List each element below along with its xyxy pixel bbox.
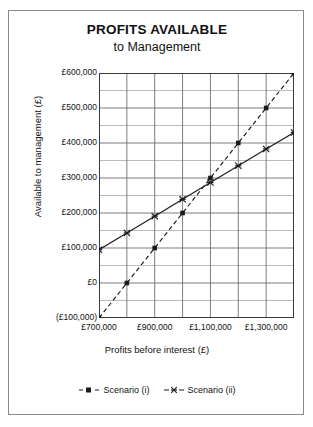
y-axis-tick-labels: £600,000£500,000£400,000£300,000£200,000… [21, 73, 97, 318]
legend-label-scenario-i: Scenario (i) [103, 385, 149, 395]
y-tick-label: £500,000 [27, 102, 97, 112]
chart-canvas [99, 73, 294, 318]
legend-marker-square-icon [78, 385, 100, 395]
y-tick-label: (£100,000) [27, 312, 97, 322]
y-tick-label: £600,000 [27, 67, 97, 77]
x-tick-label: £1,300,000 [226, 322, 304, 332]
legend-label-scenario-ii: Scenario (ii) [188, 385, 236, 395]
legend-item-scenario-i: Scenario (i) [78, 385, 149, 395]
plot-area [99, 73, 294, 318]
chart-title-block: PROFITS AVAILABLE to Management [9, 22, 304, 55]
y-tick-label: £0 [27, 277, 97, 287]
y-tick-label: £300,000 [27, 172, 97, 182]
y-tick-label: £100,000 [27, 242, 97, 252]
x-axis-title: Profits before interest (£) [9, 344, 304, 355]
chart-subtitle: to Management [9, 39, 304, 55]
legend-item-scenario-ii: Scenario (ii) [163, 385, 236, 395]
y-tick-label: £200,000 [27, 207, 97, 217]
chart-legend: Scenario (i) Scenario (ii) [9, 385, 304, 395]
page-title: PROFITS AVAILABLE [9, 22, 304, 38]
chart-figure: PROFITS AVAILABLE to Management Availabl… [8, 10, 304, 415]
legend-marker-x-icon [163, 385, 185, 395]
y-tick-label: £400,000 [27, 137, 97, 147]
x-axis-tick-labels: £700,000£900,000£1,100,000£1,300,000 [99, 322, 294, 338]
